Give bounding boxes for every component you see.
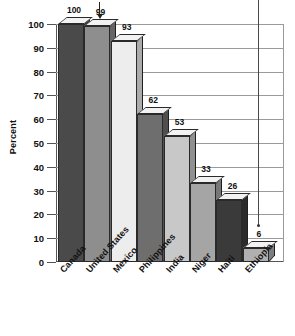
bar-value-label-ethiopia: 6 (239, 229, 279, 239)
bar-front-face (190, 183, 216, 262)
y-tick-mark-70 (47, 95, 56, 96)
y-tick-mark-50 (47, 143, 56, 144)
y-tick-mark-80 (47, 72, 56, 73)
x-axis-category-labels: CanadaUnited StatesMexicoPhilippinesIndi… (56, 264, 284, 336)
y-tick-label-70: 70 (14, 90, 44, 101)
y-tick-label-60: 60 (14, 114, 44, 125)
y-tick-label-40: 40 (14, 161, 44, 172)
y-tick-label-80: 80 (14, 66, 44, 77)
y-tick-label-90: 90 (14, 42, 44, 53)
bar-value-label-mexico: 93 (107, 22, 147, 32)
bar-value-label-india: 53 (160, 117, 200, 127)
y-tick-label-30: 30 (14, 185, 44, 196)
down-arrow-icon (95, 2, 105, 19)
bar-value-label-philippines: 62 (133, 95, 173, 105)
bar-front-face (84, 26, 110, 262)
bar-series: 1009993625333266 (56, 24, 284, 262)
vertical-pointer-line (258, 0, 259, 226)
y-tick-label-0: 0 (14, 257, 44, 268)
bar-philippines (137, 106, 163, 262)
bar-chart: Percent 1009080706050403020100 100999362… (0, 0, 295, 336)
bar-front-face (58, 24, 84, 262)
y-tick-mark-10 (47, 238, 56, 239)
bar-haiti (216, 192, 242, 262)
y-tick-label-100: 100 (14, 19, 44, 30)
bar-value-label-niger: 33 (186, 164, 226, 174)
y-tick-mark-100 (47, 24, 56, 25)
y-tick-mark-90 (47, 48, 56, 49)
bar-value-label-haiti: 26 (212, 181, 252, 191)
y-tick-label-10: 10 (14, 233, 44, 244)
y-tick-mark-0 (47, 262, 56, 263)
bar-united-states (84, 18, 110, 262)
y-tick-mark-30 (47, 191, 56, 192)
y-tick-mark-40 (47, 167, 56, 168)
y-axis-tick-labels: 1009080706050403020100 (14, 0, 44, 336)
bar-front-face (137, 114, 163, 262)
y-tick-label-50: 50 (14, 138, 44, 149)
bar-canada (58, 16, 84, 262)
y-tick-mark-60 (47, 119, 56, 120)
y-axis-tick-marks (47, 0, 56, 336)
y-tick-label-20: 20 (14, 209, 44, 220)
y-tick-mark-20 (47, 214, 56, 215)
chart-title (0, 0, 295, 1)
